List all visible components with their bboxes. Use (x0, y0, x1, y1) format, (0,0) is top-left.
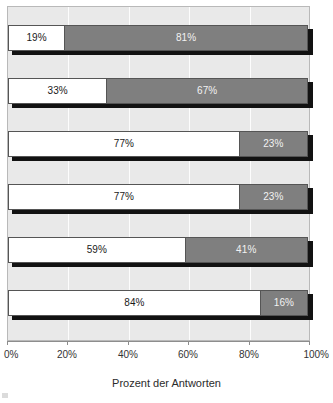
bar-segment-gray[interactable]: 23% (239, 184, 308, 210)
bar-track: 59% 41% (8, 237, 309, 263)
bar-segment-gray[interactable]: 81% (64, 25, 308, 51)
bar-segment-label: 16% (274, 298, 294, 308)
x-axis-title: Prozent der Antworten (0, 377, 333, 389)
x-axis-line (7, 341, 310, 342)
x-axis-tick (249, 341, 250, 345)
bar-row[interactable]: 77% 23% (8, 131, 309, 157)
bar-segment-gray[interactable]: 67% (106, 78, 308, 104)
x-axis-tick-label: 60% (178, 349, 198, 360)
stacked-bar-chart: 19% 81% 33% 67% (0, 0, 333, 403)
bar-segment-label: 23% (263, 139, 283, 149)
bar-track: 33% 67% (8, 78, 309, 104)
bar-track: 84% 16% (8, 290, 309, 316)
bar-segment-label: 59% (87, 245, 107, 255)
plot-area: 19% 81% 33% 67% (7, 6, 310, 341)
bar-row[interactable]: 84% 16% (8, 290, 309, 316)
bar-segment-gray[interactable]: 16% (260, 290, 308, 316)
bar-track: 77% 23% (8, 184, 309, 210)
bar-segment-label: 84% (124, 298, 144, 308)
bar-segment-label: 81% (176, 33, 196, 43)
bar-row[interactable]: 19% 81% (8, 25, 309, 51)
bar-segment-gray[interactable]: 23% (239, 131, 308, 157)
bar-segment-label: 67% (197, 86, 217, 96)
bar-segment-white[interactable]: 19% (8, 25, 65, 51)
bar-segment-white[interactable]: 59% (8, 237, 186, 263)
x-axis-tick-label: 20% (57, 349, 77, 360)
bar-segment-gray[interactable]: 41% (185, 237, 308, 263)
bar-segment-label: 77% (114, 139, 134, 149)
x-axis-tick (128, 341, 129, 345)
bar-row[interactable]: 77% 23% (8, 184, 309, 210)
bar-track: 77% 23% (8, 131, 309, 157)
bar-row[interactable]: 33% 67% (8, 78, 309, 104)
bar-track: 19% 81% (8, 25, 309, 51)
bar-segment-label: 41% (236, 245, 256, 255)
x-axis-tick (7, 341, 8, 345)
x-axis-tick-label: 0% (4, 349, 18, 360)
x-axis-tick-label: 100% (303, 349, 329, 360)
x-axis-tick-label: 40% (118, 349, 138, 360)
bar-segment-white[interactable]: 77% (8, 131, 240, 157)
x-axis-tick (309, 341, 310, 345)
bar-segment-label: 77% (114, 192, 134, 202)
bar-segment-label: 23% (263, 192, 283, 202)
x-axis-tick (188, 341, 189, 345)
bar-row[interactable]: 59% 41% (8, 237, 309, 263)
bar-segment-label: 19% (26, 33, 46, 43)
bar-segment-white[interactable]: 84% (8, 290, 261, 316)
bar-segment-label: 33% (48, 86, 68, 96)
corner-artifact (2, 393, 8, 398)
x-axis-tick (67, 341, 68, 345)
x-axis-tick-label: 80% (239, 349, 259, 360)
bar-segment-white[interactable]: 77% (8, 184, 240, 210)
bar-segment-white[interactable]: 33% (8, 78, 107, 104)
